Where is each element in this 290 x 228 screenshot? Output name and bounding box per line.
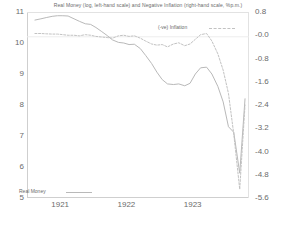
y-left-tick-label: 5 xyxy=(2,194,24,202)
legend-item-inflation: (-ve) Inflation xyxy=(158,24,235,31)
y-left-tick-label: 6 xyxy=(2,163,24,171)
y-right-tick-label: -0.8 xyxy=(255,55,288,63)
chart-figure: Real Money (log, left-hand scale) and Ne… xyxy=(0,0,290,228)
series-line-ve-inflation xyxy=(35,34,245,190)
y-left-tick-label: 11 xyxy=(2,8,24,16)
data-series-group xyxy=(35,16,245,190)
x-tick-label: 1922 xyxy=(117,200,135,210)
y-right-tick-label: 0.8 xyxy=(255,8,288,16)
y-right-tick-label: -3.2 xyxy=(255,124,288,132)
y-left-tick-label: 7 xyxy=(2,132,24,140)
plot-canvas xyxy=(27,12,249,198)
y-right-tick-label: -4.0 xyxy=(255,148,288,156)
legend-label-real-money: Real Money xyxy=(19,188,46,195)
chart-title: Real Money (log, left-hand scale) and Ne… xyxy=(36,2,260,9)
y-axis-right: 0.8-0.0-0.8-1.6-2.4-3.2-4.0-4.8-5.6 xyxy=(255,12,288,198)
series-line-real-money xyxy=(35,16,245,173)
legend-item-real-money: Real Money xyxy=(19,188,92,195)
y-left-tick-label: 9 xyxy=(2,70,24,78)
footer-partial-text xyxy=(4,221,284,228)
plot-frame xyxy=(27,12,249,198)
x-tick-label: 1921 xyxy=(51,200,69,210)
y-left-tick-label: 8 xyxy=(2,101,24,109)
x-axis: 192119221923 xyxy=(27,200,249,214)
legend-swatch-real-money xyxy=(66,190,92,194)
x-tick-label: 1923 xyxy=(184,200,202,210)
y-right-tick-label: -2.4 xyxy=(255,101,288,109)
y-right-tick-label: -0.0 xyxy=(255,31,288,39)
y-right-tick-label: -5.6 xyxy=(255,194,288,202)
legend-label-inflation: (-ve) Inflation xyxy=(158,24,187,31)
plot-area xyxy=(27,12,249,198)
legend-swatch-inflation xyxy=(209,26,235,30)
y-right-tick-label: -1.6 xyxy=(255,78,288,86)
y-axis-left: 567891011 xyxy=(0,12,24,198)
y-right-tick-label: -4.8 xyxy=(255,171,288,179)
y-left-tick-label: 10 xyxy=(2,39,24,47)
